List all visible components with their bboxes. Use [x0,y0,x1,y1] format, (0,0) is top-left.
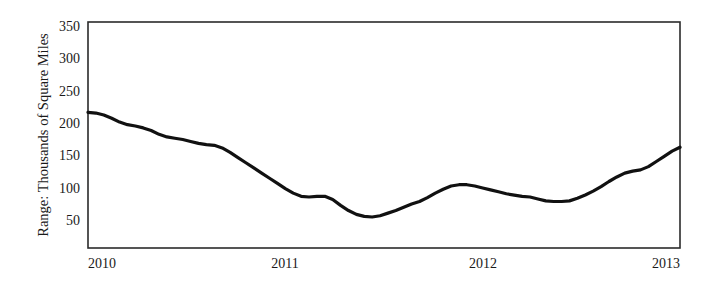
x-tick-label: 2013 [652,256,680,271]
y-tick-label: 200 [59,116,80,131]
chart-background [0,0,717,287]
chart-screenshot: 350 300 250 200 150 100 50 2010 2011 201… [0,0,717,287]
x-tick-label: 2010 [88,256,116,271]
y-tick-label: 350 [59,19,80,34]
line-chart-figure: 350 300 250 200 150 100 50 2010 2011 201… [0,0,717,287]
y-tick-label: 100 [59,181,80,196]
chart-canvas: 350 300 250 200 150 100 50 2010 2011 201… [0,0,717,287]
y-tick-label: 300 [59,51,80,66]
y-axis-title: Range: Thousands of Square Miles [35,33,51,237]
y-tick-label: 250 [59,84,80,99]
x-tick-label: 2011 [271,256,298,271]
x-tick-label: 2012 [469,256,497,271]
y-tick-label: 150 [59,148,80,163]
y-tick-label: 50 [66,213,80,228]
